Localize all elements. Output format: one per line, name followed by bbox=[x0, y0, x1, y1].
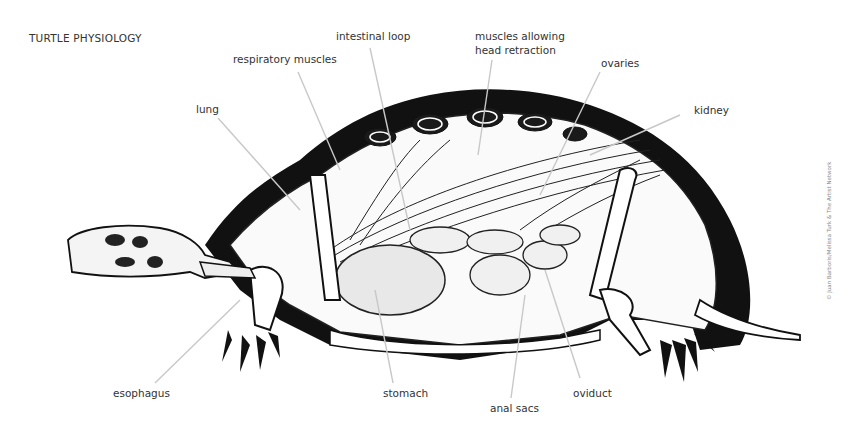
copyright-credit: © Juan Barboris/Melissa Turk & The Artis… bbox=[826, 162, 832, 300]
label-head-retraction-line2: head retraction bbox=[475, 43, 565, 57]
label-ovaries: ovaries bbox=[601, 56, 639, 70]
front-claws bbox=[222, 330, 280, 372]
label-intestinal-loop: intestinal loop bbox=[336, 29, 410, 43]
label-esophagus: esophagus bbox=[113, 386, 170, 400]
turtle-anatomy-illustration bbox=[0, 0, 868, 441]
label-head-retraction-line1: muscles allowing bbox=[475, 29, 565, 43]
label-anal-sacs: anal sacs bbox=[490, 401, 539, 415]
label-oviduct: oviduct bbox=[573, 386, 612, 400]
label-lung: lung bbox=[196, 102, 219, 116]
rear-claws bbox=[660, 334, 715, 382]
label-stomach: stomach bbox=[383, 386, 428, 400]
label-kidney: kidney bbox=[694, 103, 729, 117]
label-head-retraction: muscles allowing head retraction bbox=[475, 29, 565, 57]
label-respiratory-muscles: respiratory muscles bbox=[233, 52, 337, 66]
diagram-title: TURTLE PHYSIOLOGY bbox=[29, 32, 142, 44]
stomach-organ bbox=[335, 245, 445, 315]
